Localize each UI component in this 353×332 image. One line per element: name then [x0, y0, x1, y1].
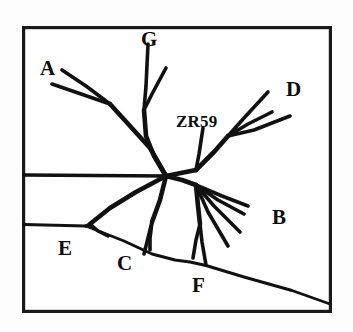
- label-zr59: ZR59: [176, 113, 217, 130]
- label-a: A: [40, 58, 55, 79]
- label-f: F: [192, 275, 205, 296]
- label-b: B: [272, 207, 286, 228]
- branch-c-tip-2: [150, 222, 152, 250]
- tree-drawing: [0, 0, 353, 332]
- label-e: E: [58, 238, 72, 259]
- figure-frame: [24, 28, 331, 312]
- root-branch-upper: [24, 175, 166, 176]
- phylogenetic-tree-figure: A G D ZR59 B E C F: [0, 0, 353, 332]
- root-branch-lower-to-e: [24, 225, 86, 227]
- label-d: D: [286, 79, 301, 100]
- label-c: C: [117, 253, 132, 274]
- label-g: G: [141, 29, 157, 50]
